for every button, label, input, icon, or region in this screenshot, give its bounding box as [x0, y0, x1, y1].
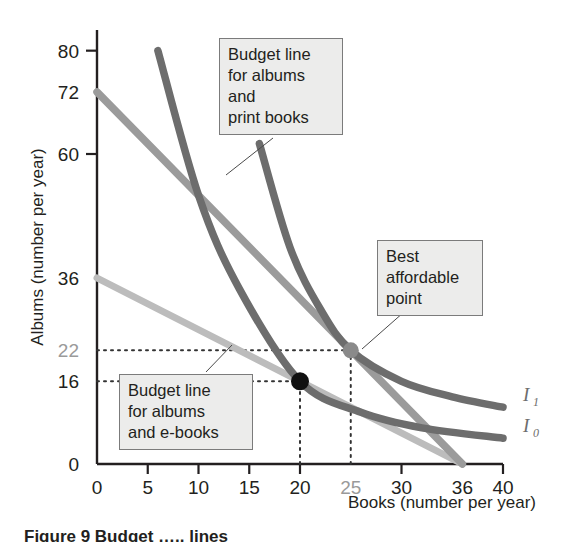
curve-label-i0-subscript: 0: [533, 426, 539, 440]
y-axis-title: Albums (number per year): [28, 148, 47, 345]
y-tick-label-80: 80: [58, 41, 79, 62]
y-tick-label-22: 22: [58, 340, 79, 361]
y-tick-label-16: 16: [58, 371, 79, 392]
y-axis-ticks: [86, 51, 97, 154]
curve-label-i0-letter: I: [522, 415, 531, 436]
y-tick-label-0: 0: [68, 454, 79, 475]
x-tick-label-20: 20: [289, 477, 310, 498]
annotation-budget-line-print-books: Budget line for albums and print books: [219, 38, 343, 135]
y-tick-label-60: 60: [58, 144, 79, 165]
curve-label-i1-subscript: 1: [533, 395, 539, 409]
y-tick-label-36: 36: [58, 268, 79, 289]
marker-best-affordable-point-ebooks: [291, 372, 309, 390]
curve-label-i0: I 0: [522, 415, 539, 440]
curve-label-i1: I 1: [522, 384, 539, 409]
leader-lines: [206, 138, 404, 372]
annotation-budget-line-ebooks: Budget line for albums and e-books: [119, 374, 253, 450]
marker-best-affordable-point-print: [343, 342, 359, 358]
x-tick-label-0: 0: [92, 477, 103, 498]
leader-line-ebooks: [206, 345, 232, 372]
curve-label-i1-letter: I: [522, 384, 531, 405]
y-axis-tick-labels: 8072603622160: [58, 41, 79, 475]
y-tick-label-72: 72: [58, 82, 79, 103]
x-tick-label-15: 15: [239, 477, 260, 498]
leader-line-best-point: [362, 312, 404, 349]
figure-container: 8072603622160 0510152025303640 Albums (n…: [0, 0, 572, 542]
x-axis-title: Books (number per year): [348, 493, 536, 512]
x-axis-ticks: [148, 464, 503, 474]
figure-caption: Figure 9 Budget ….. lines: [24, 527, 228, 542]
annotation-best-affordable-point: Best affordable point: [377, 240, 483, 316]
x-tick-label-10: 10: [188, 477, 209, 498]
x-tick-label-5: 5: [142, 477, 153, 498]
